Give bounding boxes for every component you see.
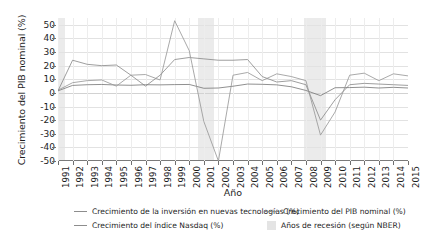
legend-item-label: Crecimiento del índice Nasdaq (%) bbox=[92, 221, 224, 230]
x-tick-label: 1991 bbox=[62, 166, 71, 188]
legend-item-label: Crecimiento del PIB nominal (%) bbox=[283, 207, 406, 216]
x-tick-label: 2005 bbox=[266, 166, 275, 188]
x-tick-label: 2011 bbox=[353, 166, 362, 188]
x-tick-label: 2001 bbox=[207, 166, 216, 188]
x-tick-label: 1994 bbox=[105, 166, 114, 188]
series-line bbox=[58, 84, 408, 96]
legend-swatch-line-icon bbox=[74, 225, 87, 226]
x-tick-label: 1993 bbox=[91, 166, 100, 188]
x-tick-label: 2004 bbox=[251, 166, 260, 188]
x-axis-title: Año bbox=[58, 187, 408, 198]
x-tick-label: 2006 bbox=[280, 166, 289, 188]
legend-swatch-line-icon bbox=[74, 211, 87, 212]
plot-area bbox=[58, 18, 408, 161]
x-tick-label: 2008 bbox=[310, 166, 319, 188]
x-tick-label: 1995 bbox=[120, 166, 129, 188]
x-tick-label: 2007 bbox=[295, 166, 304, 188]
legend-swatch-line-icon bbox=[265, 211, 278, 212]
x-tick-label: 2002 bbox=[222, 166, 231, 188]
x-tick-label: 2012 bbox=[368, 166, 377, 188]
x-axis-tick-marks bbox=[58, 161, 408, 165]
x-tick-label: 2000 bbox=[193, 166, 202, 188]
y-axis-title: Crecimiento del PIB nominal (%) bbox=[14, 14, 30, 166]
legend-column-2: Crecimiento del PIB nominal (%)Años de r… bbox=[265, 205, 406, 233]
chart-legend: Crecimiento de la inversión en nuevas te… bbox=[60, 205, 410, 233]
legend-item[interactable]: Años de recesión (según NBER) bbox=[265, 219, 406, 231]
x-tick-label: 2009 bbox=[324, 166, 333, 188]
x-tick-label: 1999 bbox=[178, 166, 187, 188]
x-tick-label: 1997 bbox=[149, 166, 158, 188]
legend-item[interactable]: Crecimiento del PIB nominal (%) bbox=[265, 205, 406, 217]
x-tick-label: 1998 bbox=[164, 166, 173, 188]
x-tick-label: 2003 bbox=[237, 166, 246, 188]
x-tick-label: 2015 bbox=[412, 166, 421, 188]
x-tick-label: 2013 bbox=[382, 166, 391, 188]
x-tick-label: 2010 bbox=[339, 166, 348, 188]
x-tick-label: 1996 bbox=[135, 166, 144, 188]
legend-item-label: Años de recesión (según NBER) bbox=[281, 221, 401, 230]
x-tick-label: 1992 bbox=[76, 166, 85, 188]
legend-swatch-box-icon bbox=[267, 221, 276, 230]
x-tick-label: 2014 bbox=[397, 166, 406, 188]
series-line bbox=[58, 21, 408, 161]
y-axis-tick-labels: 50403020100-10-20-30-40-50 bbox=[33, 18, 55, 161]
series-line bbox=[58, 58, 408, 121]
series-container bbox=[58, 18, 408, 161]
